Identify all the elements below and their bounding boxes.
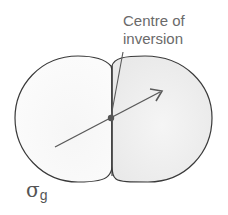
right-lobe [112,56,212,182]
gerade-subscript: g [40,187,48,203]
centre-label-line2: inversion [123,31,183,46]
symmetry-label: σg [26,180,47,205]
centre-label-line1: Centre of [123,13,185,28]
sigma-symbol: σ [26,178,40,202]
left-lobe [15,56,112,182]
centre-of-inversion-dot [108,115,114,121]
